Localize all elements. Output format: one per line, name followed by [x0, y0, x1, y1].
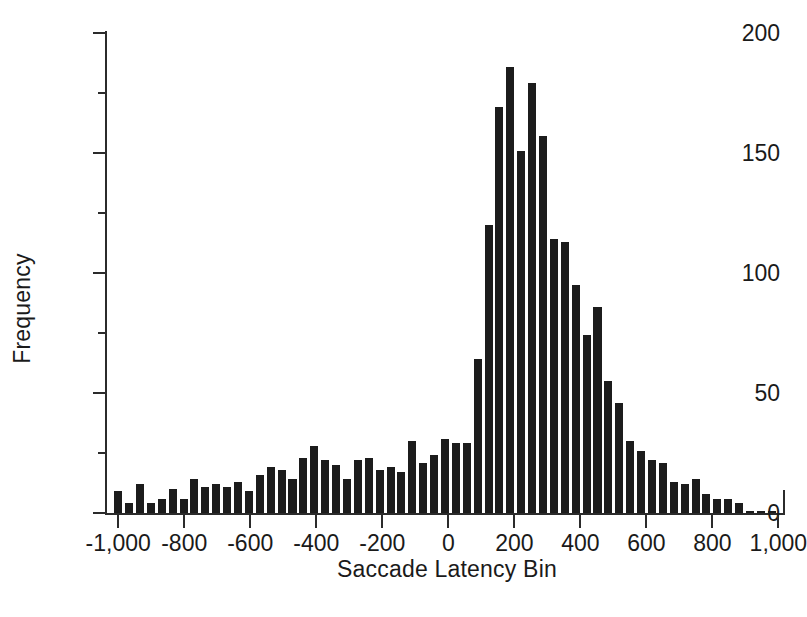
y-tick-minor [98, 332, 105, 334]
histogram-bar [517, 151, 525, 513]
x-tick-label: 400 [561, 530, 599, 557]
histogram-bar [223, 487, 231, 513]
histogram-bar [441, 439, 449, 513]
x-tick-major [249, 515, 251, 528]
y-tick-major [93, 272, 105, 274]
histogram-bar [746, 511, 754, 513]
histogram-bar [615, 403, 623, 513]
histogram-bar [125, 503, 133, 513]
x-tick-label: -600 [227, 530, 273, 557]
histogram-bar [299, 458, 307, 513]
histogram-bar [310, 446, 318, 513]
histogram-bar [343, 479, 351, 513]
histogram-bar [147, 503, 155, 513]
histogram-bar [408, 441, 416, 513]
histogram-bar [561, 242, 569, 513]
histogram-bar [332, 465, 340, 513]
histogram-bar [354, 460, 362, 513]
histogram-bar [659, 463, 667, 513]
x-tick-label: 800 [693, 530, 731, 557]
x-tick-major [513, 515, 515, 528]
histogram-bar [158, 499, 166, 513]
histogram-bar [256, 475, 264, 513]
x-tick-label: 200 [495, 530, 533, 557]
histogram-bar [550, 239, 558, 513]
histogram-bar [397, 472, 405, 513]
x-tick-label: -1,000 [86, 530, 151, 557]
x-tick-major [381, 515, 383, 528]
plot-area [105, 33, 785, 513]
histogram-bar [234, 482, 242, 513]
x-tick-major [777, 515, 779, 528]
histogram-bar [692, 479, 700, 513]
histogram-bar [637, 451, 645, 513]
histogram-bar [670, 482, 678, 513]
histogram-bar [288, 479, 296, 513]
histogram-bar [681, 484, 689, 513]
histogram-bar [387, 467, 395, 513]
histogram-bar [495, 107, 503, 513]
histogram-bar [713, 499, 721, 513]
x-tick-major [183, 515, 185, 528]
histogram-bar [201, 487, 209, 513]
x-axis-title: Saccade Latency Bin [128, 556, 766, 583]
histogram-bar [648, 460, 656, 513]
histogram-bar [190, 479, 198, 513]
histogram-bar [604, 381, 612, 513]
histogram-bar [724, 499, 732, 513]
histogram-bar [528, 83, 536, 513]
histogram-bar [757, 511, 765, 513]
histogram-bar [593, 307, 601, 513]
x-tick-label: -400 [293, 530, 339, 557]
x-tick-major [315, 515, 317, 528]
histogram-bar [474, 359, 482, 513]
histogram-bar [212, 484, 220, 513]
x-tick-label: 600 [627, 530, 665, 557]
histogram-bar [485, 225, 493, 513]
histogram-bar [452, 443, 460, 513]
x-tick-label: 0 [442, 530, 455, 557]
histogram-bar [735, 503, 743, 513]
x-tick-label: 1,000 [750, 530, 807, 557]
histogram-bar [506, 67, 514, 513]
histogram-bar [463, 443, 471, 513]
histogram-bar [539, 136, 547, 513]
x-tick-major [447, 515, 449, 528]
y-axis-title: Frequency [0, 0, 44, 617]
histogram-bar [321, 460, 329, 513]
y-tick-minor [98, 212, 105, 214]
y-tick-minor [98, 452, 105, 454]
histogram-bar [245, 491, 253, 513]
histogram-bar [114, 491, 122, 513]
histogram-bar [626, 441, 634, 513]
histogram-bar [572, 285, 580, 513]
x-tick-label: -200 [359, 530, 405, 557]
y-tick-major [93, 392, 105, 394]
x-axis-line [105, 513, 785, 515]
histogram-bar [136, 484, 144, 513]
y-tick-major [93, 512, 105, 514]
histogram-bar [278, 470, 286, 513]
histogram-bar [419, 463, 427, 513]
x-tick-major [117, 515, 119, 528]
histogram-bar [430, 455, 438, 513]
histogram-bar [768, 511, 776, 513]
histogram-bar [376, 470, 384, 513]
x-tick-major [711, 515, 713, 528]
x-tick-major [579, 515, 581, 528]
y-tick-major [93, 32, 105, 34]
histogram-bar [365, 458, 373, 513]
histogram-bar [583, 335, 591, 513]
y-tick-major [93, 152, 105, 154]
histogram-bar [169, 489, 177, 513]
histogram-bar [180, 499, 188, 513]
y-tick-minor [98, 92, 105, 94]
histogram-bar [267, 467, 275, 513]
x-tick-label: -800 [161, 530, 207, 557]
x-tick-major [645, 515, 647, 528]
histogram-bar [702, 494, 710, 513]
